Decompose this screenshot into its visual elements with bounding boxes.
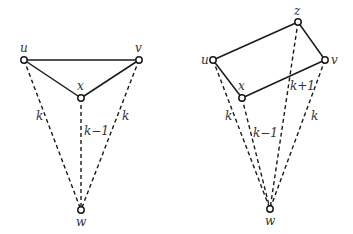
left-edge-label-x-w: k−1 (84, 124, 109, 138)
right-node-w (267, 206, 273, 212)
nodes-layer (21, 19, 328, 213)
right-edge-label-z-w: k+1 (290, 79, 315, 93)
right-solid-edge-z-v (298, 22, 325, 60)
left-node-w (78, 207, 84, 213)
left-solid-edge-x-v (81, 60, 139, 98)
left-edge-label-u-w: k (36, 109, 43, 123)
right-node-x (239, 95, 245, 101)
left-node-x (78, 95, 84, 101)
left-dashed-edge-u-w (24, 60, 81, 210)
left-node-label-v: v (135, 41, 142, 55)
left-node-u (21, 57, 27, 63)
right-node-u (210, 57, 216, 63)
solid-edges-layer (24, 22, 325, 98)
right-node-label-z: z (293, 4, 301, 18)
left-solid-edge-u-x (24, 60, 81, 98)
right-edge-label-u-w: k (225, 109, 232, 123)
right-node-v (322, 57, 328, 63)
graph-diagram-canvas: kk−1kuvxwkk−1k+1kuzvxw (0, 0, 353, 234)
right-node-label-w: w (265, 214, 276, 228)
right-edge-label-x-w: k−1 (253, 126, 278, 140)
right-dashed-edge-z-w (270, 22, 298, 209)
left-edge-label-v-w: k (122, 109, 129, 123)
right-node-z (295, 19, 301, 25)
right-solid-edge-u-z (213, 22, 298, 60)
dashed-edges-layer (24, 22, 325, 210)
right-node-label-x: x (238, 79, 245, 93)
right-edge-label-v-w: k (311, 109, 318, 123)
right-node-label-v: v (331, 53, 338, 67)
left-node-label-x: x (77, 79, 84, 93)
left-node-label-u: u (20, 41, 28, 55)
right-node-label-u: u (201, 53, 209, 67)
left-node-v (136, 57, 142, 63)
right-dashed-edge-x-w (242, 98, 270, 209)
labels-layer: kk−1kuvxwkk−1k+1kuzvxw (20, 4, 338, 229)
left-node-label-w: w (76, 215, 87, 229)
